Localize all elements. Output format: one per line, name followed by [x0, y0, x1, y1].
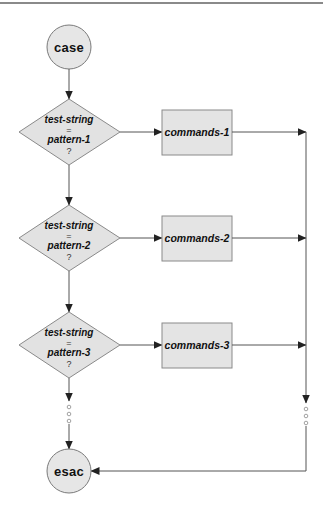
end-label: esac [54, 464, 84, 479]
action-2-label: commands-2 [165, 232, 230, 244]
start-node-case: case [47, 25, 91, 69]
action-1-label: commands-1 [165, 126, 230, 138]
case-esac-flowchart: case test-string = pattern-1 ? commands-… [0, 0, 323, 512]
decision-2-line1: test-string [45, 220, 94, 231]
ellipsis-dot [67, 419, 71, 423]
decision-1-question: ? [66, 146, 71, 156]
action-node-2: commands-2 [162, 216, 232, 261]
action-3-label: commands-3 [165, 339, 230, 351]
decision-node-1: test-string = pattern-1 ? [19, 99, 120, 165]
decision-2-line2: pattern-2 [47, 240, 91, 251]
ellipsis-dot [304, 421, 308, 425]
end-node-esac: esac [47, 449, 91, 493]
decision-node-3: test-string = pattern-3 ? [19, 312, 120, 378]
left-ellipsis [67, 405, 71, 423]
decision-3-line1: test-string [45, 327, 94, 338]
decision-3-line2: pattern-3 [47, 347, 91, 358]
decision-1-line1: test-string [45, 114, 94, 125]
right-ellipsis [304, 407, 308, 425]
decision-node-2: test-string = pattern-2 ? [19, 205, 120, 271]
ellipsis-dot [67, 405, 71, 409]
ellipsis-dot [67, 412, 71, 416]
action-node-1: commands-1 [162, 110, 232, 155]
ellipsis-dot [304, 407, 308, 411]
exit-bus-to-esac [91, 426, 306, 471]
start-label: case [54, 40, 84, 55]
action-node-3: commands-3 [162, 323, 232, 368]
decision-2-question: ? [66, 252, 71, 262]
decision-1-line2: pattern-1 [47, 134, 91, 145]
decision-3-question: ? [66, 359, 71, 369]
ellipsis-dot [304, 414, 308, 418]
